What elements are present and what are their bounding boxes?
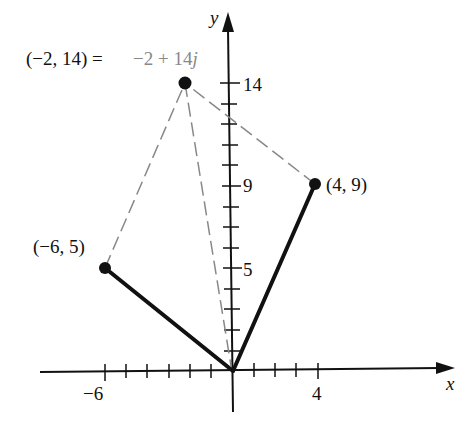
complex-form-text: −2 + 14 [133,48,192,69]
solid-vectors [105,184,315,371]
x-tick-label-neg6: −6 [83,384,103,403]
dashed-parallelogram-sides [105,83,315,366]
y-tick-label-9: 9 [243,176,253,195]
y-axis-arrow-icon [222,12,234,32]
y-tick-label-14: 14 [243,75,262,94]
point-label-4-9: (4, 9) [326,175,367,194]
point-neg2-14 [179,77,192,90]
y-axis [228,28,233,412]
point-4-9 [309,178,321,190]
point-neg6-5 [99,262,111,274]
x-axis-label: x [446,374,454,393]
point-label-neg2-14: (−2, 14) = [26,49,103,68]
point-label-neg6-5: (−6, 5) [33,237,85,256]
x-axis [40,368,440,372]
complex-form-label: −2 + 14j [133,49,198,68]
y-tick-label-5: 5 [243,260,253,279]
x-tick-label-4: 4 [312,384,322,403]
imaginary-unit: j [192,48,197,69]
y-axis-label: y [210,8,218,27]
